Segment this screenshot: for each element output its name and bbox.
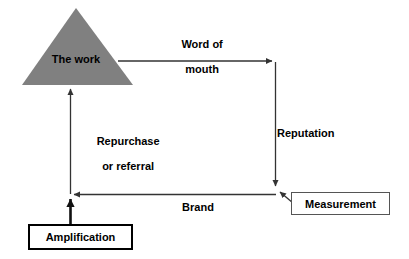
measurement-box-label: Measurement [305,198,376,210]
triangle-the-work [22,8,133,85]
label-repurchase-line2: or referral [102,160,154,172]
label-word-of-mouth: Word of mouth [158,25,234,88]
amplification-box-label: Amplification [46,231,116,243]
diagram-canvas: The work Word of mouth Repurchase or ref… [0,0,409,259]
label-brand: Brand [168,201,228,214]
label-repurchase-or-referral: Repurchase or referral [78,122,166,185]
label-word-of-mouth-line2: mouth [185,63,219,75]
label-the-work: The work [36,53,116,66]
label-repurchase-line1: Repurchase [97,135,160,147]
label-word-of-mouth-line1: Word of [181,38,222,50]
amplification-box: Amplification [28,224,133,250]
label-reputation: Reputation [277,127,347,140]
measurement-box: Measurement [291,192,390,215]
